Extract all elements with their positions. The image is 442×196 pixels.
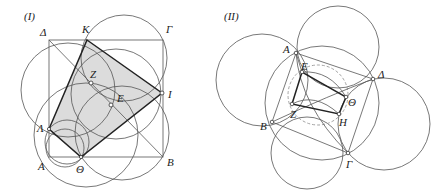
- point-Z: [89, 81, 93, 85]
- label-I: Ι: [167, 88, 173, 100]
- figure-2: (II) Α Ε Δ Θ Η Ζ Β Γ: [216, 6, 430, 189]
- label-D: Δ: [377, 68, 384, 80]
- point-I: [160, 91, 164, 95]
- label-L: Λ: [36, 122, 44, 134]
- label-H: Η: [338, 116, 348, 128]
- label-A: Α: [37, 160, 45, 172]
- label-E: Ε: [300, 60, 308, 72]
- label-Th: Θ: [348, 96, 356, 108]
- point-Z: [290, 102, 294, 106]
- label-Z: Ζ: [90, 68, 97, 80]
- figure-1: (I) Δ Κ Γ Ι Ζ Ε Λ Α Θ Β: [21, 10, 174, 187]
- label-G: Γ: [345, 158, 353, 170]
- point-L: [47, 127, 50, 130]
- label-A: Α: [282, 43, 290, 55]
- figure-2-title: (II): [224, 10, 239, 23]
- point-E: [109, 103, 113, 107]
- label-Z: Ζ: [290, 108, 297, 120]
- label-K: Κ: [81, 23, 90, 35]
- outer-circle-BG: [271, 117, 343, 189]
- diagram-canvas: (I) Δ Κ Γ Ι Ζ Ε Λ Α Θ Β: [0, 0, 442, 196]
- point-B: [270, 120, 274, 124]
- label-E: Ε: [116, 92, 124, 104]
- label-G: Γ: [165, 23, 173, 35]
- outer-circle-DG: [338, 78, 430, 170]
- label-Th: Θ: [76, 163, 84, 175]
- point-D: [371, 77, 375, 81]
- figure-1-title: (I): [24, 10, 35, 23]
- label-B: Β: [167, 156, 174, 168]
- point-A: [294, 51, 298, 55]
- point-Th: [79, 155, 82, 158]
- quadrilateral-EZHTh: [292, 72, 346, 114]
- label-D: Δ: [39, 26, 46, 38]
- label-B: Β: [260, 120, 267, 132]
- arc-B-D: [272, 79, 373, 122]
- point-G: [346, 151, 350, 155]
